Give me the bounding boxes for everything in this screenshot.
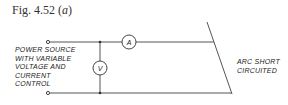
electrode-line [207,22,232,94]
top-terminal [46,40,49,43]
junction-top [99,41,102,44]
source-line: CURRENT [15,72,76,81]
bottom-terminal [46,91,49,94]
arc-label: ARC SHORT CIRCUITED [237,58,280,75]
source-line: POWER SOURCE [15,46,76,55]
junction-bottom [99,92,102,95]
ammeter-label: A [126,39,132,46]
power-source-label: POWER SOURCE WITH VARIABLE VOLTAGE AND C… [15,46,76,89]
source-line: CONTROL [15,80,76,89]
source-line: VOLTAGE AND [15,63,76,72]
source-line: WITH VARIABLE [15,55,76,64]
arc-line: ARC SHORT [237,58,280,67]
arc-line: CIRCUITED [237,67,280,76]
